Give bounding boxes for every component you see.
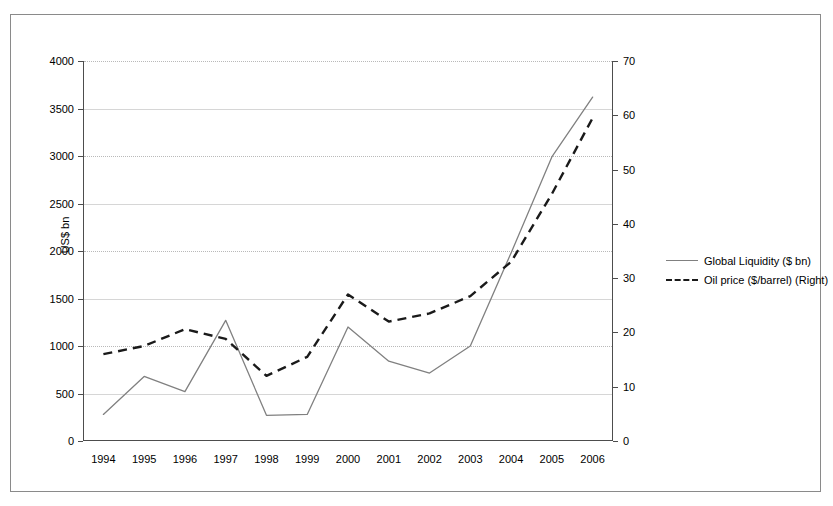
x-axis-tick-label: 1997: [213, 453, 237, 465]
x-axis-tick-label: 1999: [295, 453, 319, 465]
x-axis-tick-label: 2002: [417, 453, 441, 465]
x-axis-tick-label: 2005: [540, 453, 564, 465]
x-axis-tick-label: 1998: [254, 453, 278, 465]
right-axis-tick-label: 40: [623, 218, 635, 230]
left-axis-tick-label: 3000: [50, 150, 74, 162]
left-axis-tick-label: 1500: [50, 293, 74, 305]
left-axis-tick-label: 2500: [50, 198, 74, 210]
chart-legend: Global Liquidity ($ bn) Oil price ($/bar…: [666, 251, 816, 289]
right-axis-tick: [613, 332, 618, 333]
right-axis-tick-label: 0: [623, 435, 629, 447]
x-axis-tick-label: 2003: [458, 453, 482, 465]
right-axis-tick-label: 50: [623, 164, 635, 176]
right-axis-tick: [613, 441, 618, 442]
right-axis-tick-label: 70: [623, 55, 635, 67]
left-axis-tick-label: 3500: [50, 103, 74, 115]
legend-label-oil-price: Oil price ($/barrel) (Right): [704, 274, 828, 286]
right-axis-tick: [613, 170, 618, 171]
right-axis-tick-label: 60: [623, 109, 635, 121]
right-axis-tick: [613, 387, 618, 388]
screenshot-root: US$ bn 05001000150020002500300035004000 …: [0, 0, 833, 506]
legend-swatch-dashed-line-icon: [666, 275, 698, 285]
series-lines: [83, 61, 613, 441]
left-axis-tick: [78, 441, 83, 442]
x-axis-tick-label: 1996: [173, 453, 197, 465]
right-axis-tick-label: 30: [623, 272, 635, 284]
right-axis-tick: [613, 115, 618, 116]
series-line-oil-price: [103, 118, 592, 376]
right-axis-tick: [613, 224, 618, 225]
legend-item-global-liquidity: Global Liquidity ($ bn): [666, 251, 816, 270]
x-axis-tick-label: 2004: [499, 453, 523, 465]
left-axis-tick-label: 1000: [50, 340, 74, 352]
right-axis-tick: [613, 278, 618, 279]
legend-item-oil-price: Oil price ($/barrel) (Right): [666, 270, 816, 289]
right-axis-tick-label: 10: [623, 381, 635, 393]
chart-area: US$ bn 05001000150020002500300035004000 …: [11, 15, 822, 493]
left-axis-tick-label: 500: [56, 388, 74, 400]
left-axis-tick-label: 0: [68, 435, 74, 447]
legend-swatch-solid-line-icon: [666, 256, 698, 266]
x-axis-tick-label: 2006: [580, 453, 604, 465]
x-axis-tick-label: 2001: [377, 453, 401, 465]
x-axis-tick-label: 1994: [91, 453, 115, 465]
left-axis-tick-label: 4000: [50, 55, 74, 67]
chart-figure-frame: US$ bn 05001000150020002500300035004000 …: [10, 14, 821, 492]
right-axis-tick-label: 20: [623, 326, 635, 338]
x-axis-tick-label: 2000: [336, 453, 360, 465]
right-axis-tick: [613, 61, 618, 62]
x-axis-tick-label: 1995: [132, 453, 156, 465]
left-axis-tick-label: 2000: [50, 245, 74, 257]
plot-area: 05001000150020002500300035004000 0102030…: [83, 61, 613, 441]
legend-label-global-liquidity: Global Liquidity ($ bn): [704, 255, 811, 267]
y-axis-title-left: US$ bn: [59, 175, 71, 295]
series-line-global-liquidity: [103, 97, 592, 415]
